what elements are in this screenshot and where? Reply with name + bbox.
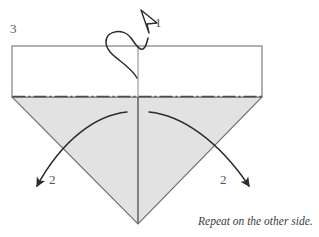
arrow-label-2-right: 2	[220, 173, 227, 186]
shaded-triangle	[12, 97, 262, 224]
step-number: 3	[10, 22, 17, 35]
arrow-label-1: 1	[155, 16, 162, 29]
repeat-instruction-caption: Repeat on the other side.	[198, 216, 313, 228]
origami-diagram: 3 1 2 2 Repeat on the other side.	[0, 0, 319, 237]
origami-illustration	[0, 0, 319, 237]
arrow-label-2-left: 2	[49, 173, 56, 186]
white-flap-rectangle	[12, 46, 262, 97]
